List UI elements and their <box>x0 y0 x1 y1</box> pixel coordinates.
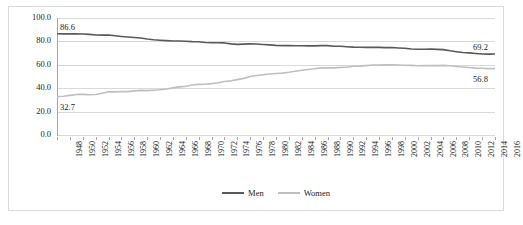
series-line-women <box>57 65 495 97</box>
tick-mark <box>392 137 393 140</box>
tick-mark <box>353 137 354 140</box>
x-axis-tick: 1972 <box>207 137 217 181</box>
tick-mark <box>289 137 290 140</box>
x-axis-tick: 1952 <box>78 137 88 181</box>
tick-mark <box>224 137 225 140</box>
data-label-men-end: 69.2 <box>473 42 488 52</box>
tick-mark <box>276 137 277 140</box>
tick-mark <box>482 137 483 140</box>
tick-mark <box>199 137 200 140</box>
tick-mark <box>83 137 84 140</box>
x-axis-tick: 1954 <box>91 137 101 181</box>
gridline <box>57 135 495 136</box>
tick-mark <box>237 137 238 140</box>
legend-line-icon <box>278 192 300 194</box>
data-label-women-end: 56.8 <box>473 74 488 84</box>
x-axis-tick: 1960 <box>129 137 139 181</box>
tick-mark <box>109 137 110 140</box>
tick-mark <box>379 137 380 140</box>
tick-mark <box>57 137 58 140</box>
tick-mark <box>263 137 264 140</box>
x-axis-tick: 2002 <box>400 137 410 181</box>
x-axis-tick: 1958 <box>116 137 126 181</box>
x-axis-tick: 1956 <box>104 137 114 181</box>
legend-label: Men <box>248 188 264 198</box>
data-label-women-start: 32.7 <box>60 102 75 112</box>
x-axis-tick: 1988 <box>310 137 320 181</box>
x-axis-tick: 1962 <box>142 137 152 181</box>
x-axis-tick: 1974 <box>219 137 229 181</box>
data-label-men-start: 86.6 <box>60 22 75 32</box>
x-axis-tick: 1980 <box>258 137 268 181</box>
tick-mark <box>70 137 71 140</box>
x-axis-tick: 1990 <box>323 137 333 181</box>
tick-mark <box>186 137 187 140</box>
series-lines <box>57 18 495 135</box>
legend-item-men[interactable]: Men <box>222 188 264 198</box>
x-axis-tick: 1966 <box>168 137 178 181</box>
y-axis-tick-label: 0.0 <box>5 130 51 139</box>
y-axis-tick-label: 60.0 <box>5 60 51 69</box>
y-axis-tick-label: 80.0 <box>5 36 51 45</box>
x-axis-tick-label: 2014 <box>500 141 510 177</box>
x-axis-tick: 1950 <box>65 137 75 181</box>
x-axis-tick-label: 2016 <box>513 141 523 177</box>
tick-mark <box>431 137 432 140</box>
legend-label: Women <box>304 188 330 198</box>
tick-mark <box>469 137 470 140</box>
x-axis-tick: 1982 <box>271 137 281 181</box>
x-axis-labels: 1948195019521954195619581960196219641966… <box>57 137 495 181</box>
x-axis-tick: 2014 <box>477 137 487 181</box>
legend-line-icon <box>222 192 244 194</box>
tick-mark <box>340 137 341 140</box>
tick-mark <box>418 137 419 140</box>
x-axis-tick: 1948 <box>52 137 62 181</box>
series-line-men <box>57 34 495 54</box>
tick-mark <box>443 137 444 140</box>
tick-mark <box>173 137 174 140</box>
tick-mark <box>315 137 316 140</box>
x-axis-tick: 2012 <box>464 137 474 181</box>
x-axis-tick: 1976 <box>232 137 242 181</box>
x-axis-tick: 1986 <box>297 137 307 181</box>
x-axis-tick: 1964 <box>155 137 165 181</box>
tick-mark <box>250 137 251 140</box>
x-axis-tick: 1970 <box>194 137 204 181</box>
x-axis-tick: 1996 <box>361 137 371 181</box>
y-axis-tick-label: 100.0 <box>5 13 51 22</box>
x-axis-tick: 1992 <box>335 137 345 181</box>
y-axis-tick-label: 40.0 <box>5 83 51 92</box>
y-axis-tick-label: 20.0 <box>5 107 51 116</box>
tick-mark <box>134 137 135 140</box>
x-axis-tick: 2000 <box>387 137 397 181</box>
tick-mark <box>495 137 496 140</box>
legend-item-women[interactable]: Women <box>278 188 330 198</box>
plot-area <box>57 18 495 135</box>
tick-mark <box>147 137 148 140</box>
tick-mark <box>121 137 122 140</box>
tick-mark <box>302 137 303 140</box>
x-axis-tick: 1978 <box>245 137 255 181</box>
chart-legend: MenWomen <box>57 186 495 200</box>
tick-mark <box>212 137 213 140</box>
x-axis-tick: 2016 <box>490 137 500 181</box>
x-axis-tick: 2004 <box>413 137 423 181</box>
tick-mark <box>96 137 97 140</box>
tick-mark <box>328 137 329 140</box>
x-axis-tick: 1998 <box>374 137 384 181</box>
x-axis-tick: 1984 <box>284 137 294 181</box>
tick-mark <box>405 137 406 140</box>
tick-mark <box>160 137 161 140</box>
x-axis-tick: 1968 <box>181 137 191 181</box>
tick-mark <box>456 137 457 140</box>
x-axis-tick: 2010 <box>451 137 461 181</box>
x-axis-tick: 2006 <box>426 137 436 181</box>
x-axis-tick: 2008 <box>438 137 448 181</box>
tick-mark <box>366 137 367 140</box>
x-axis-tick: 1994 <box>348 137 358 181</box>
